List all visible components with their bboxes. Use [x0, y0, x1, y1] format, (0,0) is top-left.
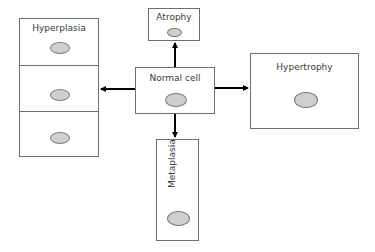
arrows-layer: [0, 0, 375, 252]
